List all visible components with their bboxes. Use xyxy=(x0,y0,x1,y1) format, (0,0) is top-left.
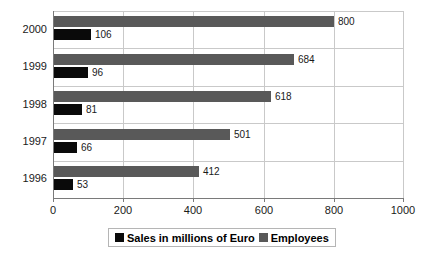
category-separator xyxy=(53,86,404,87)
x-axis-line xyxy=(53,198,404,199)
bar-employees-2000 xyxy=(54,29,91,40)
y-axis-tick-label: 1996 xyxy=(1,172,47,184)
bar-value-sales-1998: 618 xyxy=(275,91,292,102)
legend-swatch-icon xyxy=(259,233,268,242)
category-separator xyxy=(53,48,404,49)
x-axis-tick-label: 0 xyxy=(28,204,78,216)
x-axis-tick-400 xyxy=(193,198,194,202)
bar-value-employees-1997: 66 xyxy=(81,142,92,153)
y-axis-tick-label: 1999 xyxy=(1,60,47,72)
bar-value-employees-1996: 53 xyxy=(77,179,88,190)
bar-employees-1997 xyxy=(54,142,77,153)
bar-sales-1998 xyxy=(54,91,271,102)
category-separator xyxy=(53,11,404,12)
x-axis-tick-label: 400 xyxy=(168,204,218,216)
bar-chart: 2000 1999 1998 1997 1996 800 106 684 96 xyxy=(0,0,437,263)
bar-value-sales-1997: 501 xyxy=(234,129,251,140)
y-axis-tick-label: 2000 xyxy=(1,23,47,35)
y-axis-category-labels: 2000 1999 1998 1997 1996 xyxy=(0,11,47,198)
legend-label-employees: Employees xyxy=(271,232,329,244)
bar-employees-1998 xyxy=(54,104,82,115)
bar-value-sales-1999: 684 xyxy=(298,54,315,65)
x-axis-tick-600 xyxy=(264,198,265,202)
legend-swatch-icon xyxy=(115,233,124,242)
bar-employees-1996 xyxy=(54,179,73,190)
x-axis-tick-label: 200 xyxy=(98,204,148,216)
x-axis-tick-label: 1000 xyxy=(378,204,428,216)
legend-label-sales: Sales in millions of Euro xyxy=(127,232,255,244)
x-axis-tick-label: 800 xyxy=(309,204,359,216)
gridline-1000 xyxy=(403,11,404,198)
chart-legend: Sales in millions of Euro Employees xyxy=(108,228,336,247)
x-axis-tick-label: 600 xyxy=(239,204,289,216)
x-axis-tick-1000 xyxy=(403,198,404,202)
y-axis-tick-label: 1997 xyxy=(1,135,47,147)
plot-area: 800 106 684 96 618 81 501 66 412 53 xyxy=(53,11,404,198)
x-axis-tick-0 xyxy=(53,198,54,202)
category-separator xyxy=(53,161,404,162)
gridline-600 xyxy=(264,11,265,198)
bar-value-employees-1998: 81 xyxy=(86,104,97,115)
bar-sales-1999 xyxy=(54,54,294,65)
legend-item-sales: Sales in millions of Euro xyxy=(115,232,255,244)
bar-sales-1997 xyxy=(54,129,230,140)
x-axis-tick-200 xyxy=(123,198,124,202)
bar-sales-1996 xyxy=(54,166,199,177)
bar-sales-2000 xyxy=(54,16,334,27)
gridline-800 xyxy=(334,11,335,198)
bar-value-sales-1996: 412 xyxy=(203,166,220,177)
bar-value-employees-2000: 106 xyxy=(95,29,112,40)
y-axis-tick-label: 1998 xyxy=(1,98,47,110)
x-axis-tick-800 xyxy=(334,198,335,202)
legend-item-employees: Employees xyxy=(259,232,329,244)
bar-employees-1999 xyxy=(54,67,88,78)
bar-value-sales-2000: 800 xyxy=(338,16,355,27)
category-separator xyxy=(53,123,404,124)
bar-value-employees-1999: 96 xyxy=(92,67,103,78)
